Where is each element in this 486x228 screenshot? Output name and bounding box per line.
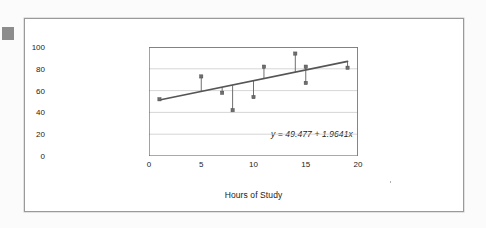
data-point-marker (294, 52, 297, 55)
y-tick-label-100: 100 (19, 43, 45, 52)
data-point-marker (221, 91, 224, 94)
y-tick-label-40: 40 (19, 108, 45, 117)
data-point-marker (304, 65, 307, 68)
y-tick-label-60: 60 (19, 87, 45, 96)
x-axis-title-wrap: Hours of Study (149, 156, 358, 208)
data-point-marker (252, 96, 255, 99)
data-point-marker (346, 66, 349, 69)
y-tick-label-0: 0 (19, 152, 45, 161)
data-point-marker (231, 109, 234, 112)
data-point-marker (262, 65, 265, 68)
plot-svg (149, 47, 358, 156)
data-point-marker (304, 81, 307, 84)
figure-frame: Exam Score 100 80 60 40 20 0 0 5 10 15 2… (24, 18, 464, 212)
scanned-page: Exam Score 100 80 60 40 20 0 0 5 10 15 2… (0, 0, 486, 228)
y-tick-label-80: 80 (19, 65, 45, 74)
plot-area (149, 47, 358, 156)
scan-speck-artifact (390, 181, 391, 183)
scan-corner-artifact (2, 27, 14, 40)
data-point-marker (158, 98, 161, 101)
x-axis-title: Hours of Study (149, 190, 358, 200)
scatter-plot (149, 47, 358, 156)
data-point-marker (200, 75, 203, 78)
y-tick-label-20: 20 (19, 130, 45, 139)
